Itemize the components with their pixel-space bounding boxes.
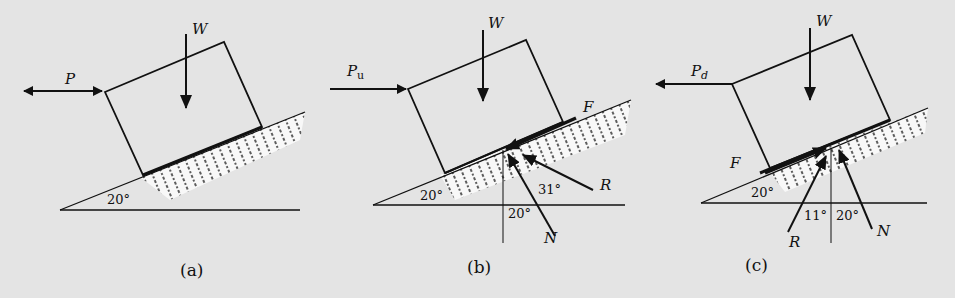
normal-angle-label: 20° [508, 206, 531, 221]
weight-label: W [192, 20, 209, 38]
push-label: Pu [346, 62, 364, 82]
incline-angle-label: 20° [107, 192, 130, 207]
resultant-label: R [788, 233, 800, 251]
panel-caption: (c) [745, 255, 768, 275]
friction-label: F [582, 98, 594, 116]
normal-angle-label: 20° [836, 208, 859, 223]
friction-label: F [729, 154, 741, 172]
incline-line [60, 112, 305, 210]
push-label: Pd [690, 62, 708, 82]
ground-hatch [140, 112, 305, 200]
panel-b: Pu W F R N 31° 20° 20° (b) [330, 14, 631, 277]
panel-caption: (a) [180, 260, 203, 280]
panel-c: Pd W F R N 11° 20° 20° (c) [656, 12, 928, 275]
ground-hatch [768, 108, 928, 192]
panel-a: P W 20° (a) [24, 20, 305, 280]
incline-angle-label: 20° [751, 185, 774, 200]
figure: P W 20° (a) Pu W F R N 31° 20° 20° (b) [0, 0, 955, 298]
normal-label: N [543, 229, 558, 247]
friction-angle-label: 11° [804, 208, 827, 223]
incline-angle-label: 20° [420, 188, 443, 203]
weight-label: W [488, 14, 505, 32]
weight-label: W [816, 12, 833, 30]
friction-angle-label: 31° [538, 182, 561, 197]
resultant-label: R [599, 176, 611, 194]
panel-caption: (b) [467, 257, 491, 277]
normal-label: N [876, 222, 891, 240]
push-label: P [64, 70, 76, 88]
